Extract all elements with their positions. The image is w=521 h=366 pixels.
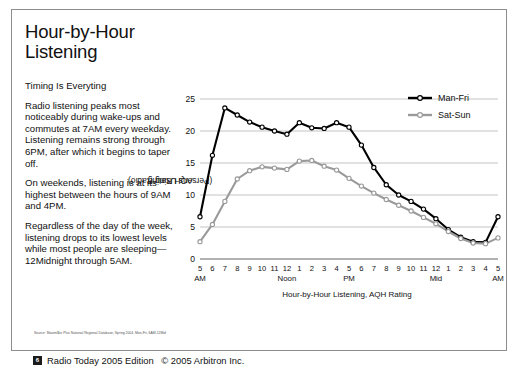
data-point [297,121,301,125]
data-point [248,120,252,124]
data-point [409,199,413,203]
data-point [260,165,264,169]
x-axis-tick-label: 9 [397,264,401,273]
x-axis-tick-label: 2 [459,264,463,273]
data-point [496,236,500,240]
data-point [272,166,276,170]
x-axis-tick-label: 4 [483,264,487,273]
data-point [272,129,276,133]
x-axis-daypart-label: Noon [278,274,297,283]
chart-plot-area: 0510152025567891011121234567891011121234… [162,82,521,312]
footer-text: Radio Today 2005 Edition © 2005 Arbitron… [47,355,244,366]
data-point [334,121,338,125]
x-axis-tick-label: 4 [334,264,338,273]
legend-swatch-marker [418,113,423,118]
data-point [397,193,401,197]
data-point [285,167,289,171]
x-axis-daypart-label: Mid [430,274,443,283]
legend-swatch-marker [418,96,423,101]
data-point [248,169,252,173]
x-axis-tick-label: 5 [496,264,500,273]
chart-x-axis-title: Hour-by-Hour Listening, AQH Rating [222,290,472,299]
page-number-badge: 6 [33,356,42,365]
y-axis-tick-label: 20 [185,126,195,136]
x-axis-tick-label: 3 [322,264,326,273]
data-point [347,125,351,129]
data-point [446,229,450,233]
data-point [496,215,500,219]
footer: 6 Radio Today 2005 Edition © 2005 Arbitr… [33,355,244,366]
data-point [409,209,413,213]
x-axis-tick-label: 5 [347,264,351,273]
hour-by-hour-chart: AQH Rating (Persons Using Radio) 0510152… [162,82,521,312]
data-point [198,215,202,219]
series-line-sat-sun [200,160,498,243]
x-axis-tick-label: 6 [359,264,363,273]
data-point [310,126,314,130]
x-axis-daypart-label: AM [194,274,206,283]
legend-label-man-fri: Man-Fri [438,93,469,103]
body-paragraph-3: Regardless of the day of the week, liste… [25,220,175,266]
y-axis-tick-label: 5 [190,222,195,232]
data-point [372,165,376,169]
data-point [459,236,463,240]
data-point [297,159,301,163]
data-point [384,197,388,201]
x-axis-daypart-label: AM [492,274,504,283]
data-point [483,242,487,246]
left-text-column: Hour-by-Hour Listening Timing Is Everyti… [25,22,175,266]
x-axis-daypart-label: PM [343,274,355,283]
data-point [322,126,326,130]
data-point [210,222,214,226]
data-point [434,222,438,226]
data-point [198,240,202,244]
data-point [434,217,438,221]
legend-label-sat-sun: Sat-Sun [438,110,471,120]
data-point [322,164,326,168]
data-point [235,177,239,181]
x-axis-tick-label: 1 [446,264,450,273]
x-axis-tick-label: 7 [223,264,227,273]
footer-edition: Radio Today 2005 Edition [47,355,154,366]
x-axis-tick-label: 2 [310,264,314,273]
x-axis-tick-label: 10 [407,264,415,273]
y-axis-tick-label: 15 [185,158,195,168]
y-axis-tick-label: 25 [185,94,195,104]
page-title: Hour-by-Hour Listening [25,22,175,62]
data-point [223,199,227,203]
x-axis-tick-label: 5 [198,264,202,273]
data-point [235,113,239,117]
x-axis-tick-label: 8 [384,264,388,273]
x-axis-tick-label: 3 [471,264,475,273]
y-axis-tick-label: 0 [190,254,195,264]
data-point [285,132,289,136]
x-axis-tick-label: 6 [210,264,214,273]
data-point [334,168,338,172]
x-axis-tick-label: 1 [297,264,301,273]
source-note: Source: Maximi$er Plus National Regional… [34,331,214,336]
data-point [397,203,401,207]
x-axis-tick-label: 11 [420,264,428,273]
data-point [347,176,351,180]
x-axis-tick-label: 8 [235,264,239,273]
data-point [223,106,227,110]
data-point [471,241,475,245]
x-axis-tick-label: 11 [271,264,279,273]
data-point [372,191,376,195]
section-subhead: Timing Is Everyting [25,80,175,92]
report-sheet: Hour-by-Hour Listening Timing Is Everyti… [11,9,507,351]
data-point [210,153,214,157]
x-axis-tick-label: 12 [283,264,291,273]
x-axis-tick-label: 9 [248,264,252,273]
body-paragraph-1: Radio listening peaks most noticeably du… [25,100,175,170]
data-point [359,143,363,147]
x-axis-tick-label: 7 [372,264,376,273]
y-axis-tick-label: 10 [185,190,195,200]
x-axis-tick-label: 10 [258,264,266,273]
data-point [260,125,264,129]
data-point [310,158,314,162]
data-point [421,207,425,211]
x-axis-tick-label: 12 [432,264,440,273]
data-point [384,183,388,187]
